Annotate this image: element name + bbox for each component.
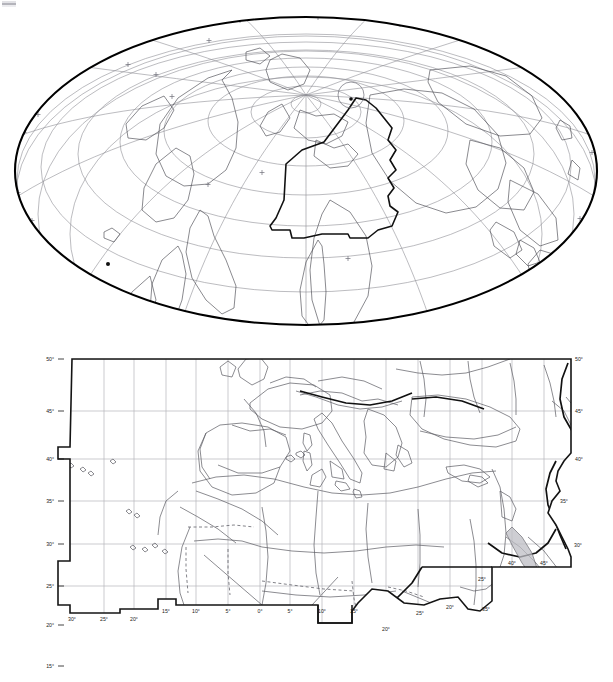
regional-map-panel: 50° 45° 40° 35° 30° 25° 20° 15° xyxy=(0,341,613,682)
lon-label-step-right: 45° xyxy=(540,560,548,566)
lon-label-step-right: 35° xyxy=(482,606,490,612)
graticule-tick-marks xyxy=(16,15,595,335)
lon-label-step-mid: 25° xyxy=(416,610,424,616)
north-pole-dot xyxy=(349,97,353,101)
lon-label-inset: 30° xyxy=(68,616,76,622)
lat-label-right: 35° xyxy=(560,498,568,504)
lon-label-step-right: 20° xyxy=(446,604,454,610)
lon-label-inset: 20° xyxy=(130,616,138,622)
lat-label-left: 20° xyxy=(46,622,54,628)
lat-label-right: 45° xyxy=(575,408,583,414)
lon-label-bottom: 15° xyxy=(350,608,358,614)
lon-label-step-right: 25° xyxy=(478,576,486,582)
world-globe-panel xyxy=(0,0,613,341)
lon-label-bottom: 0° xyxy=(258,608,263,614)
lat-label-left: 45° xyxy=(46,408,54,414)
lat-label-right: 30° xyxy=(574,542,582,548)
lon-label-bottom: 5° xyxy=(288,608,293,614)
lat-label-right: 40° xyxy=(575,456,583,462)
lon-label-step-mid: 20° xyxy=(382,626,390,632)
lon-label-bottom: 10° xyxy=(192,608,200,614)
lon-label-inset: 25° xyxy=(100,616,108,622)
lat-label-left: 30° xyxy=(46,541,54,547)
globe-svg xyxy=(0,0,613,341)
lat-label-left: 15° xyxy=(46,663,54,669)
lat-label-left: 50° xyxy=(46,356,54,362)
coastlines xyxy=(60,48,582,338)
map-figure: 50° 45° 40° 35° 30° 25° 20° 15° xyxy=(0,0,613,682)
lon-label-step-right: 40° xyxy=(508,560,516,566)
region-svg: 50° 45° 40° 35° 30° 25° 20° 15° xyxy=(0,341,613,682)
lat-label-left: 35° xyxy=(46,498,54,504)
lat-label-left: 40° xyxy=(46,456,54,462)
lat-label-left: 25° xyxy=(46,583,54,589)
lon-label-bottom: 10° xyxy=(318,608,326,614)
lon-label-bottom: 15° xyxy=(162,608,170,614)
lat-label-right: 50° xyxy=(575,356,583,362)
lon-label-bottom: 5° xyxy=(226,608,231,614)
globe-graticule-group xyxy=(16,14,597,341)
south-marker-dot xyxy=(106,262,110,266)
